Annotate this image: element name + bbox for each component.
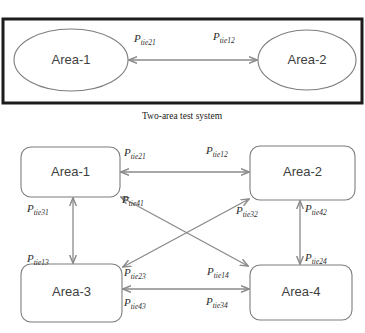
tie-label-tie34: Ptie34 <box>205 295 228 310</box>
bottom-diagram-group: Area-1 Area-2 Area-3 Area-4 Ptie21 Ptie1… <box>21 144 355 322</box>
bottom-node-area1-label: Area-1 <box>51 164 90 179</box>
figure-caption: Two-area test system <box>142 111 223 121</box>
tie-label-tie24: Ptie24 <box>304 251 327 266</box>
tie-label-tie32: Ptie32 <box>235 204 258 219</box>
tie-label-tie43: Ptie43 <box>123 296 146 311</box>
diagram-svg: Area-1 Area-2 Ptie21 Ptie12 Two-area tes… <box>0 0 365 333</box>
diagram-canvas: Area-1 Area-2 Ptie21 Ptie12 Two-area tes… <box>0 0 365 333</box>
top-diagram-group: Area-1 Area-2 Ptie21 Ptie12 <box>3 19 362 103</box>
tie-label-tie42: Ptie42 <box>304 202 327 217</box>
top-node-area1-label: Area-1 <box>51 52 90 67</box>
bottom-node-area4-label: Area-4 <box>281 284 320 299</box>
tie-label-tie31: Ptie31 <box>26 202 49 217</box>
tie-label-tie12: Ptie12 <box>205 144 228 159</box>
bottom-node-area3-label: Area-3 <box>52 284 91 299</box>
top-node-area2-label: Area-2 <box>287 52 326 67</box>
tie-label-tie21: Ptie21 <box>123 146 146 161</box>
tie-label-tie41: Ptie41 <box>121 193 144 208</box>
bottom-node-area2-label: Area-2 <box>283 164 322 179</box>
tie-label-tie23: Ptie23 <box>123 266 146 281</box>
tie-label-tie14: Ptie14 <box>206 265 229 280</box>
